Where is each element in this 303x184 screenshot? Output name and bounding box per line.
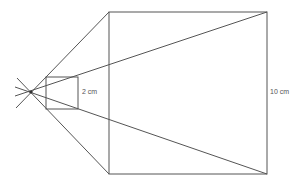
large-square — [109, 12, 267, 174]
large-square-label: 10 cm — [270, 88, 289, 95]
projection-center-point — [29, 90, 32, 93]
small-square — [46, 77, 78, 109]
diagram-canvas: 2 cm 10 cm — [0, 0, 303, 184]
projection-diagram — [0, 0, 303, 184]
small-square-label: 2 cm — [82, 88, 97, 95]
ray-top-right — [15, 12, 267, 96]
ray-bottom-right — [15, 87, 267, 174]
